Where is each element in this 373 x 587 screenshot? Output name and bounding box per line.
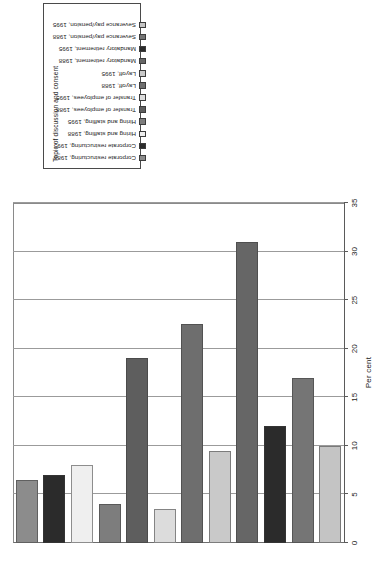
bar bbox=[126, 358, 148, 543]
axis-tick bbox=[344, 202, 348, 203]
axis-baseline bbox=[344, 202, 345, 543]
legend-swatch bbox=[139, 143, 146, 150]
bar bbox=[292, 378, 314, 543]
legend-item-label: Layoff, 1995 bbox=[64, 70, 136, 77]
legend: Topic of discussion and consent Corporat… bbox=[43, 3, 141, 169]
legend-swatch bbox=[139, 70, 146, 77]
legend-item-label: Corporate restructuring, 1988 bbox=[64, 155, 136, 162]
axis-tick-label: 30 bbox=[350, 240, 359, 264]
axis-tick bbox=[344, 299, 348, 300]
legend-item: Corporate restructuring, 1988 bbox=[64, 152, 146, 164]
bar bbox=[71, 465, 93, 543]
axis-tick bbox=[344, 251, 348, 252]
axis-tick-label: 25 bbox=[350, 288, 359, 312]
bar bbox=[236, 242, 258, 543]
axis-tick-label: 20 bbox=[350, 337, 359, 361]
chart-rotated-canvas: Per cent 05101520253035 bbox=[0, 176, 369, 587]
legend-swatch bbox=[139, 155, 146, 162]
bar bbox=[99, 504, 121, 543]
gridline bbox=[13, 348, 344, 349]
legend-item-label: Hiring and staffing, 1995 bbox=[64, 118, 136, 125]
legend-item-label: Severance pay/pension, 1995 bbox=[64, 22, 136, 29]
legend-item: Layoff, 1988 bbox=[64, 79, 146, 91]
axis-tick bbox=[344, 542, 348, 543]
legend-swatch bbox=[139, 34, 146, 41]
axis-tick-label: 35 bbox=[350, 191, 359, 215]
legend-item: Transfer of employees, 1995 bbox=[64, 91, 146, 103]
bar bbox=[43, 475, 65, 543]
axis-tick-label: 5 bbox=[350, 482, 359, 506]
gridline bbox=[13, 251, 344, 252]
legend-content: Topic of discussion and consent Corporat… bbox=[44, 4, 142, 170]
x-axis-title: Per cent bbox=[364, 158, 373, 587]
legend-item: Layoff, 1995 bbox=[64, 67, 146, 79]
bar bbox=[264, 426, 286, 543]
legend-item-label: Corporate restructuring, 1995 bbox=[64, 143, 136, 150]
legend-swatch bbox=[139, 106, 146, 113]
legend-item-label: Mandatory retirement, 1995 bbox=[64, 46, 136, 53]
legend-items: Corporate restructuring, 1988Corporate r… bbox=[64, 10, 146, 164]
legend-swatch bbox=[139, 46, 146, 53]
axis-tick bbox=[344, 445, 348, 446]
axis-tick-label: 15 bbox=[350, 385, 359, 409]
legend-item: Hiring and staffing, 1988 bbox=[64, 128, 146, 140]
bar bbox=[181, 324, 203, 543]
axis-tick bbox=[344, 493, 348, 494]
legend-swatch bbox=[139, 22, 146, 29]
legend-item-label: Transfer of employees, 1988 bbox=[64, 106, 136, 113]
legend-item-label: Severance pay/pension, 1988 bbox=[64, 34, 136, 41]
gridline bbox=[13, 202, 344, 203]
legend-item: Severance pay/pension, 1988 bbox=[64, 31, 146, 43]
legend-title: Topic of discussion and consent bbox=[52, 10, 60, 162]
legend-item: Severance pay/pension, 1995 bbox=[64, 19, 146, 31]
bar bbox=[154, 509, 176, 543]
bar bbox=[319, 446, 341, 543]
legend-swatch bbox=[139, 58, 146, 65]
gridline bbox=[13, 299, 344, 300]
legend-item-label: Layoff, 1988 bbox=[64, 82, 136, 89]
legend-swatch bbox=[139, 82, 146, 89]
legend-item: Corporate restructuring, 1995 bbox=[64, 140, 146, 152]
chart: Per cent 05101520253035 bbox=[0, 176, 369, 587]
axis-tick bbox=[344, 348, 348, 349]
bar bbox=[16, 480, 38, 543]
legend-swatch bbox=[139, 118, 146, 125]
legend-item-label: Mandatory retirement, 1988 bbox=[64, 58, 136, 65]
legend-swatch bbox=[139, 131, 146, 138]
axis-tick-label: 0 bbox=[350, 531, 359, 555]
legend-item: Transfer of employees, 1988 bbox=[64, 104, 146, 116]
legend-item-label: Hiring and staffing, 1988 bbox=[64, 130, 136, 137]
legend-item-label: Transfer of employees, 1995 bbox=[64, 94, 136, 101]
legend-item: Mandatory retirement, 1988 bbox=[64, 55, 146, 67]
bar bbox=[209, 451, 231, 543]
axis-tick bbox=[344, 396, 348, 397]
legend-swatch bbox=[139, 94, 146, 101]
legend-item: Hiring and staffing, 1995 bbox=[64, 116, 146, 128]
legend-item: Mandatory retirement, 1995 bbox=[64, 43, 146, 55]
axis-tick-label: 10 bbox=[350, 434, 359, 458]
